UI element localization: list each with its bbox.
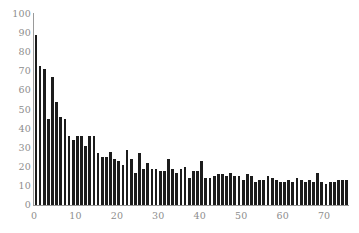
x-axis-tick-label: 20 xyxy=(111,211,124,221)
histogram-bar xyxy=(43,69,46,205)
histogram-bar xyxy=(171,169,174,205)
histogram-bar xyxy=(184,167,187,205)
histogram-bar xyxy=(159,171,162,205)
histogram-bar xyxy=(72,140,75,205)
histogram-bar xyxy=(204,178,207,205)
histogram-bar xyxy=(325,184,328,205)
histogram-bar xyxy=(76,136,79,205)
histogram-bar xyxy=(84,146,87,205)
histogram-bar xyxy=(275,180,278,205)
histogram-bar xyxy=(155,169,158,205)
histogram-bar xyxy=(117,161,120,205)
histogram-bar xyxy=(279,182,282,205)
x-axis-tick-label: 70 xyxy=(318,211,331,221)
histogram-bar xyxy=(142,169,145,205)
histogram-bar xyxy=(130,159,133,205)
x-axis-tick-label: 0 xyxy=(31,211,37,221)
histogram-chart: 0102030405060708090100 010203040506070 xyxy=(0,0,359,233)
histogram-bar xyxy=(300,180,303,205)
histogram-bar xyxy=(88,136,91,205)
histogram-bar xyxy=(262,180,265,205)
histogram-bar xyxy=(221,174,224,205)
histogram-bar xyxy=(146,163,149,205)
x-axis-line xyxy=(33,205,349,206)
histogram-bar xyxy=(51,77,54,205)
y-axis-tick-label: 40 xyxy=(1,124,31,134)
histogram-bar xyxy=(188,178,191,205)
histogram-bar xyxy=(35,35,38,205)
histogram-bar xyxy=(105,157,108,205)
histogram-bar xyxy=(250,176,253,205)
y-axis-tick-label: 50 xyxy=(1,105,31,115)
x-axis-tick-label: 50 xyxy=(235,211,248,221)
histogram-bar xyxy=(246,174,249,205)
histogram-bar xyxy=(291,182,294,205)
histogram-bar xyxy=(192,171,195,205)
x-axis-tick-label: 60 xyxy=(276,211,289,221)
histogram-bar xyxy=(80,136,83,205)
bars-layer xyxy=(34,14,349,205)
histogram-bar xyxy=(134,173,137,205)
histogram-bar xyxy=(68,136,71,205)
y-axis-tick-label: 20 xyxy=(1,162,31,172)
histogram-bar xyxy=(101,157,104,205)
histogram-bar xyxy=(341,180,344,205)
histogram-bar xyxy=(151,169,154,205)
histogram-bar xyxy=(163,171,166,205)
histogram-bar xyxy=(167,159,170,205)
histogram-bar xyxy=(296,178,299,205)
histogram-bar xyxy=(225,176,228,205)
histogram-bar xyxy=(320,182,323,205)
y-axis-tick-labels: 0102030405060708090100 xyxy=(0,0,31,233)
histogram-bar xyxy=(316,173,319,205)
histogram-bar xyxy=(258,180,261,205)
y-axis-tick-label: 60 xyxy=(1,85,31,95)
histogram-bar xyxy=(337,180,340,205)
x-axis-tick-label: 10 xyxy=(69,211,82,221)
histogram-bar xyxy=(196,171,199,205)
x-axis-tick-labels: 010203040506070 xyxy=(0,211,359,227)
histogram-bar xyxy=(138,153,141,205)
histogram-bar xyxy=(333,182,336,205)
histogram-bar xyxy=(329,182,332,205)
histogram-bar xyxy=(312,182,315,205)
histogram-bar xyxy=(213,176,216,205)
histogram-bar xyxy=(55,102,58,205)
histogram-bar xyxy=(308,180,311,205)
y-axis-tick-label: 10 xyxy=(1,181,31,191)
histogram-bar xyxy=(175,173,178,205)
histogram-bar xyxy=(109,152,112,205)
histogram-bar xyxy=(345,180,348,205)
y-axis-tick-label: 30 xyxy=(1,143,31,153)
histogram-bar xyxy=(122,165,125,205)
x-axis-tick-label: 30 xyxy=(152,211,165,221)
histogram-bar xyxy=(217,174,220,205)
histogram-bar xyxy=(254,182,257,205)
histogram-bar xyxy=(283,182,286,205)
y-axis-tick-label: 80 xyxy=(1,47,31,57)
histogram-bar xyxy=(209,178,212,205)
histogram-bar xyxy=(113,159,116,205)
plot-area xyxy=(34,14,349,205)
histogram-bar xyxy=(39,66,42,205)
y-axis-tick-label: 70 xyxy=(1,66,31,76)
y-axis-tick-label: 0 xyxy=(1,200,31,210)
y-axis-tick-label: 90 xyxy=(1,28,31,38)
histogram-bar xyxy=(47,119,50,205)
histogram-bar xyxy=(238,176,241,205)
histogram-bar xyxy=(271,178,274,205)
y-axis-tick-label: 100 xyxy=(1,9,31,19)
histogram-bar xyxy=(93,136,96,205)
histogram-bar xyxy=(180,169,183,205)
histogram-bar xyxy=(229,173,232,205)
histogram-bar xyxy=(304,182,307,205)
histogram-bar xyxy=(242,180,245,205)
histogram-bar xyxy=(64,119,67,205)
histogram-bar xyxy=(59,117,62,205)
histogram-bar xyxy=(233,176,236,205)
histogram-bar xyxy=(200,161,203,205)
x-axis-tick-label: 40 xyxy=(194,211,207,221)
histogram-bar xyxy=(126,150,129,205)
histogram-bar xyxy=(97,153,100,205)
histogram-bar xyxy=(267,176,270,205)
